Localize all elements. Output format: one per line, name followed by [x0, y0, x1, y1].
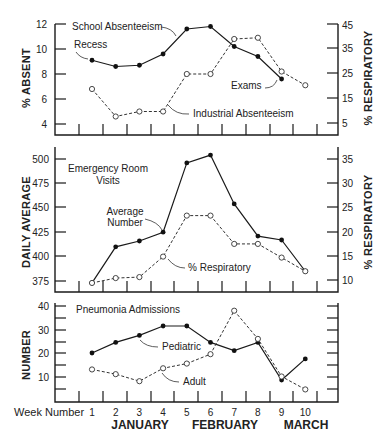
ytick-right: 25: [342, 202, 354, 213]
leader-line: [145, 219, 162, 230]
label-er-visits-line1: Emergency Room: [68, 163, 148, 174]
filled-marker: [232, 348, 237, 353]
month-march: MARCH: [284, 418, 329, 432]
ytick-right: 5: [342, 118, 348, 129]
filled-marker: [303, 356, 308, 361]
filled-marker: [137, 333, 142, 338]
label-pneumonia-admissions: Pneumonia Admissions: [76, 304, 180, 315]
week-label: 9: [279, 407, 285, 418]
middle-left-ticks: [55, 159, 66, 281]
ytick-right: 25: [342, 68, 354, 79]
open-marker: [255, 336, 260, 341]
label-er-visits-line2: Visits: [96, 175, 120, 186]
filled-marker: [161, 230, 166, 235]
open-marker: [137, 379, 142, 384]
ytick: 475: [32, 178, 49, 189]
ytick: 4: [41, 119, 47, 130]
ytick: 6: [41, 94, 47, 105]
filled-marker: [184, 161, 189, 166]
bottom-axes: [55, 303, 338, 402]
leader-line: [161, 27, 176, 36]
open-marker: [255, 35, 260, 40]
label-average-number-line2: Number: [107, 217, 143, 228]
top-left-ticks: [55, 24, 66, 124]
filled-marker: [113, 340, 118, 345]
filled-marker: [113, 244, 118, 249]
open-marker: [89, 280, 94, 285]
filled-marker: [232, 44, 237, 49]
week-label: 7: [231, 407, 237, 418]
filled-marker: [256, 234, 261, 239]
filled-marker: [184, 27, 189, 32]
open-marker: [232, 308, 237, 313]
filled-marker: [113, 64, 118, 69]
ytick: 500: [32, 154, 49, 165]
filled-marker: [90, 58, 95, 63]
filled-marker: [208, 24, 213, 29]
leader-line: [168, 259, 185, 268]
open-marker: [184, 213, 189, 218]
filled-marker: [161, 52, 166, 57]
week-label: 4: [160, 407, 166, 418]
leader-line: [76, 52, 88, 59]
middle-x-ticks: [79, 281, 317, 292]
open-marker: [113, 114, 118, 119]
open-marker: [89, 367, 94, 372]
open-marker: [137, 109, 142, 114]
filled-marker: [137, 63, 142, 68]
respiratory-illness-chart: 12 10 8 6 4 45 35 25 15 5 % ABSENT % RES…: [0, 0, 389, 447]
open-marker: [137, 274, 142, 279]
label-pediatric: Pediatric: [162, 341, 201, 352]
ytick: 450: [32, 202, 49, 213]
week-label: 3: [137, 407, 143, 418]
series-line: [92, 326, 305, 380]
open-marker: [184, 361, 189, 366]
open-marker: [161, 366, 166, 371]
open-marker: [113, 275, 118, 280]
ytick: 30: [38, 325, 50, 336]
open-marker: [303, 269, 308, 274]
leader-line: [168, 105, 189, 114]
ytick-right: 15: [342, 251, 354, 262]
y-axis-title: DAILY AVERAGE: [20, 176, 32, 268]
ytick-right: 45: [342, 20, 354, 31]
ytick: 10: [36, 44, 48, 55]
filled-marker: [232, 201, 237, 206]
ytick: 375: [32, 276, 49, 287]
series-line: [92, 38, 305, 117]
panel-absenteeism: 12 10 8 6 4 45 35 25 15 5 % ABSENT % RES…: [20, 19, 374, 135]
y-axis-title: % ABSENT: [20, 48, 32, 108]
label-exams: Exams: [231, 80, 262, 91]
open-marker: [89, 86, 94, 91]
week-label: 2: [113, 407, 119, 418]
y-axis-title: NUMBER: [20, 330, 32, 380]
open-marker: [232, 36, 237, 41]
label-industrial-absenteeism: Industrial Absenteeism: [193, 108, 294, 119]
ytick-right: 30: [342, 178, 354, 189]
open-marker: [255, 241, 260, 246]
filled-marker: [161, 324, 166, 329]
ytick-right: 35: [342, 43, 354, 54]
label-school-absenteeism: School Absenteeism: [72, 21, 163, 32]
week-label: 1: [89, 407, 95, 418]
open-marker: [208, 213, 213, 218]
x-axis-title-week-number: Week Number: [14, 406, 84, 418]
y-axis-title-right: % RESPIRATORY: [362, 30, 374, 125]
open-marker: [184, 71, 189, 76]
leader-line: [162, 373, 179, 382]
open-marker: [303, 83, 308, 88]
month-february: FEBRUARY: [192, 418, 258, 432]
bottom-x-ticks: [79, 391, 317, 402]
top-series: [89, 24, 308, 119]
ytick-right: 20: [342, 227, 354, 238]
week-label: 10: [300, 407, 312, 418]
middle-right-ticks: [327, 159, 338, 280]
bottom-left-ticks: [55, 306, 66, 389]
ytick: 425: [32, 227, 49, 238]
week-label: 8: [255, 407, 261, 418]
ytick-right: 15: [342, 93, 354, 104]
open-marker: [232, 241, 237, 246]
ytick: 400: [32, 251, 49, 262]
label-recess: Recess: [74, 39, 107, 50]
open-marker: [279, 255, 284, 260]
